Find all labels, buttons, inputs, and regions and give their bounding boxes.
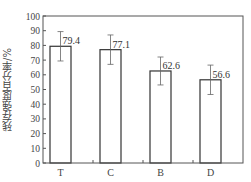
value-label: 79.4 — [63, 35, 81, 46]
y-tick-label: 30 — [31, 114, 41, 124]
x-category-label: D — [207, 167, 214, 178]
bar-group-B: 62.6 — [150, 57, 180, 163]
y-tick-label: 0 — [35, 159, 40, 169]
bar-group-T: 79.4 — [50, 32, 80, 163]
x-category-label: B — [157, 167, 164, 178]
y-tick-label: 70 — [31, 56, 41, 66]
y-tick-label: 50 — [31, 85, 41, 95]
value-label: 56.6 — [213, 69, 231, 80]
value-label: 77.1 — [113, 39, 131, 50]
x-category-label: C — [107, 167, 114, 178]
x-category-label: T — [57, 167, 63, 178]
bar-group-D: 56.6 — [200, 65, 230, 163]
bar — [50, 46, 71, 163]
y-tick-label: 80 — [31, 41, 41, 51]
y-tick-label: 90 — [31, 26, 41, 36]
bar-chart: 0102030405060708090100 79.477.162.656.6 … — [0, 0, 251, 182]
bars: 79.477.162.656.6 — [50, 32, 230, 163]
bar-group-C: 77.1 — [100, 35, 130, 163]
y-tick-label: 60 — [31, 70, 41, 80]
y-tick-label: 40 — [31, 100, 41, 110]
bar — [100, 50, 121, 163]
y-tick-label: 20 — [31, 129, 41, 139]
y-tick-label: 100 — [26, 12, 41, 22]
y-tick-label: 10 — [31, 144, 41, 154]
value-label: 62.6 — [163, 60, 181, 71]
